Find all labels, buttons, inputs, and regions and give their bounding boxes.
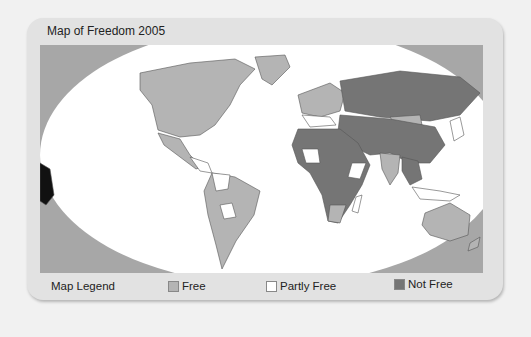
legend-item-not-free: Not Free — [394, 278, 453, 290]
legend-item-partly-free: Partly Free — [266, 280, 336, 292]
legend-label-not-free: Not Free — [408, 278, 453, 290]
not-free-swatch-icon — [394, 279, 405, 290]
partly-free-swatch-icon — [266, 281, 277, 292]
world-map — [40, 45, 483, 273]
legend-heading: Map Legend — [51, 280, 115, 292]
legend-item-free: Free — [168, 280, 206, 292]
map-title: Map of Freedom 2005 — [47, 24, 165, 38]
legend-label-free: Free — [182, 280, 206, 292]
legend-heading-text: Map Legend — [51, 280, 115, 292]
free-swatch-icon — [168, 281, 179, 292]
legend-label-partly-free: Partly Free — [280, 280, 336, 292]
